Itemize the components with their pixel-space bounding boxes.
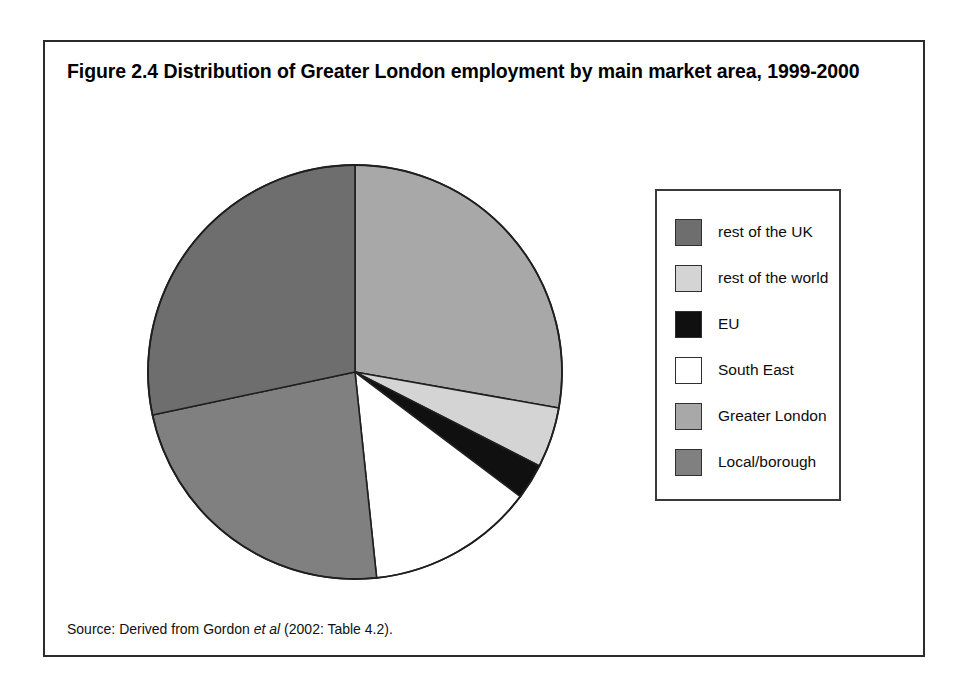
source-note-et-al: et al — [254, 621, 280, 637]
legend-label-south-east: South East — [718, 362, 794, 378]
legend-swatch-south-east — [675, 357, 702, 384]
legend-swatch-local-borough — [675, 449, 702, 476]
source-note: Source: Derived from Gordon et al (2002:… — [67, 621, 393, 637]
source-note-suffix: (2002: Table 4.2). — [280, 621, 393, 637]
pie-slice-group — [148, 165, 562, 579]
legend-item-south-east[interactable]: South East — [657, 347, 839, 393]
chart-legend: rest of the UK rest of the world EU Sout… — [655, 189, 841, 501]
figure-frame: Figure 2.4 Distribution of Greater Londo… — [43, 40, 925, 657]
legend-swatch-eu — [675, 311, 702, 338]
pie-slice-rest-of-the-uk[interactable] — [148, 165, 355, 415]
legend-label-eu: EU — [718, 316, 740, 332]
legend-item-local-borough[interactable]: Local/borough — [657, 439, 839, 485]
legend-item-rest-of-the-world[interactable]: rest of the world — [657, 255, 839, 301]
legend-swatch-rest-of-the-uk — [675, 219, 702, 246]
legend-swatch-rest-of-the-world — [675, 265, 702, 292]
legend-swatch-greater-london — [675, 403, 702, 430]
legend-label-rest-of-the-uk: rest of the UK — [718, 224, 813, 240]
pie-slice-greater-london[interactable] — [355, 165, 562, 408]
legend-label-greater-london: Greater London — [718, 408, 827, 424]
source-note-prefix: Source: Derived from Gordon — [67, 621, 254, 637]
legend-label-local-borough: Local/borough — [718, 454, 816, 470]
legend-item-rest-of-the-uk[interactable]: rest of the UK — [657, 209, 839, 255]
legend-label-rest-of-the-world: rest of the world — [718, 270, 828, 286]
legend-item-eu[interactable]: EU — [657, 301, 839, 347]
legend-item-greater-london[interactable]: Greater London — [657, 393, 839, 439]
